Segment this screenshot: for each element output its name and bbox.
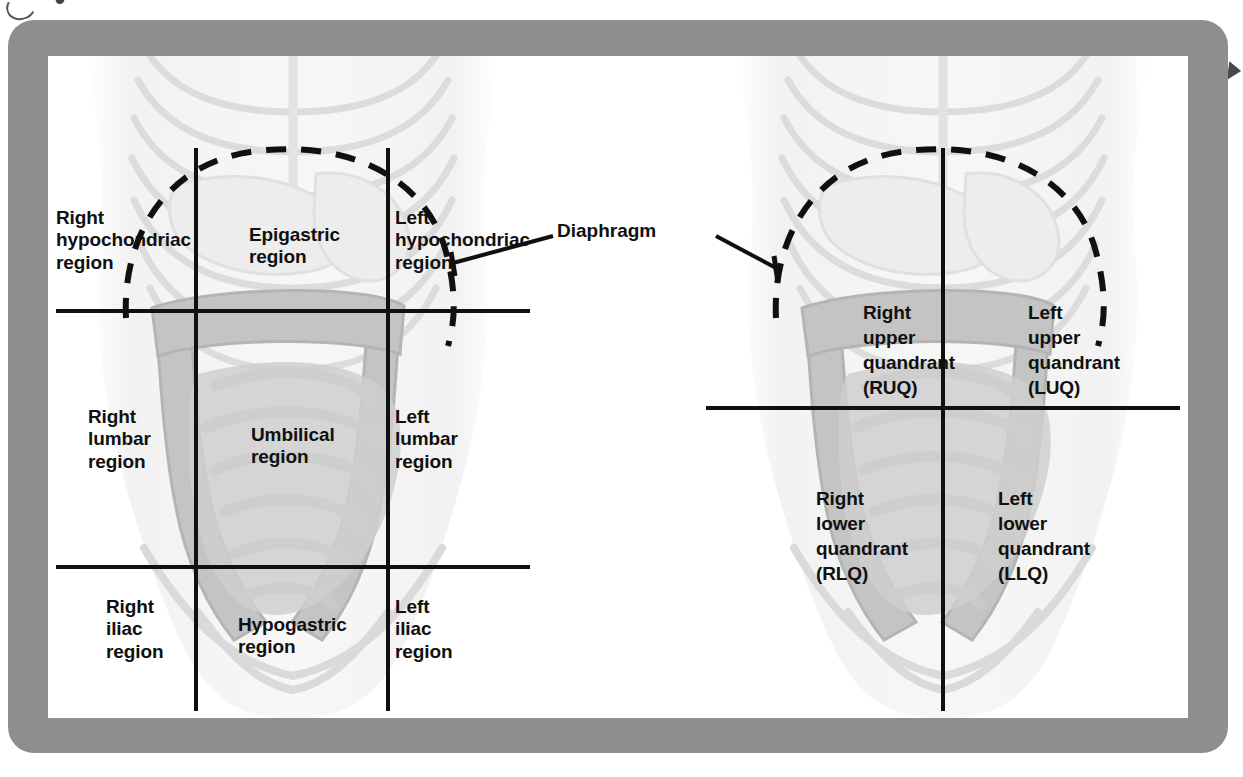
label-diaphragm: Diaphragm: [557, 220, 656, 242]
label-left-lumbar-region: Left lumbar region: [395, 406, 458, 473]
quadrants-panel: Right upper quandrant (RUQ) Left upper q…: [698, 56, 1188, 718]
label-left-iliac-region: Left iliac region: [395, 596, 452, 663]
label-epigastric-region: Epigastric region: [249, 224, 340, 269]
regions-panel: Right hypochondriac region Epigastric re…: [48, 56, 538, 718]
figure-frame: Right hypochondriac region Epigastric re…: [8, 20, 1228, 753]
label-left-lower-quadrant: Left lower quandrant (LLQ): [998, 486, 1090, 586]
label-umbilical-region: Umbilical region: [251, 424, 335, 469]
label-left-upper-quadrant: Left upper quandrant (LUQ): [1028, 300, 1120, 400]
figure-canvas: Right hypochondriac region Epigastric re…: [48, 56, 1188, 718]
label-left-hypochondriac-region: Left hypochondriac region: [395, 207, 530, 274]
label-hypogastric-region: Hypogastric region: [238, 614, 347, 659]
label-right-iliac-region: Right iliac region: [106, 596, 163, 663]
label-right-upper-quadrant: Right upper quandrant (RUQ): [863, 300, 955, 400]
label-right-hypochondriac-region: Right hypochondriac region: [56, 207, 191, 274]
label-right-lumbar-region: Right lumbar region: [88, 406, 151, 473]
cropped-arrowhead-icon: [1227, 61, 1243, 82]
label-right-lower-quadrant: Right lower quandrant (RLQ): [816, 486, 908, 586]
cropped-ink-mark-icon: [55, 0, 67, 5]
